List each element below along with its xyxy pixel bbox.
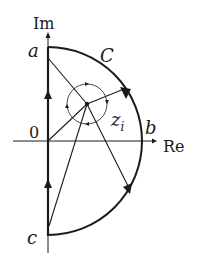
contour-c-label: C	[100, 45, 114, 66]
ray-to-arc-bottom	[87, 104, 130, 190]
real-axis-label: Re	[163, 137, 185, 156]
point-a-label: a	[28, 40, 39, 61]
node-zi	[85, 102, 89, 106]
node-label: zi	[110, 109, 124, 134]
node-subscript: i	[120, 120, 124, 134]
ray-to-a	[48, 58, 87, 104]
loop-arrow-icon	[85, 122, 89, 126]
point-b-label: b	[145, 117, 157, 138]
up-arrow-icon	[44, 90, 52, 99]
up-arrow-icon	[44, 179, 52, 188]
point-c-label: c	[27, 227, 37, 248]
real-axis-arrow-icon	[152, 139, 157, 144]
loop-arrow-icon	[65, 104, 69, 108]
loop-arrow-icon	[105, 100, 109, 104]
loop-arrow-icon	[85, 82, 89, 86]
contour-diagram: Im Re 0 a b c C zi	[0, 0, 207, 260]
origin-label: 0	[29, 123, 39, 142]
imaginary-axis-label: Im	[33, 14, 55, 33]
